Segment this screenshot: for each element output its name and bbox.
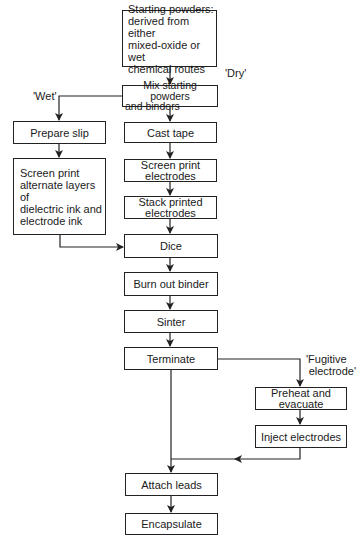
- node-sinter: Sinter: [124, 310, 218, 333]
- node-text-line: electrodes: [145, 208, 196, 219]
- node-text-line: derived from either: [128, 15, 214, 39]
- branch-label-fugitive-electrode: 'Fugitive electrode': [298, 353, 356, 377]
- node-text-line: chemical routes: [128, 63, 205, 75]
- node-encapsulate: Encapsulate: [125, 513, 218, 535]
- node-burn-out-binder: Burn out binder: [124, 272, 218, 296]
- node-mix-powders-binders: Mix starting powders and binders: [122, 85, 218, 107]
- node-text-line: Screen print: [20, 167, 79, 179]
- node-text: Terminate: [147, 353, 195, 365]
- node-text: Cast tape: [147, 127, 194, 139]
- node-text-line: and binders: [125, 101, 180, 112]
- node-text: Dice: [160, 240, 182, 252]
- branch-label-wet: 'Wet': [33, 90, 57, 102]
- node-text-line: dielectric ink and: [20, 203, 102, 215]
- node-text: Encapsulate: [141, 518, 202, 530]
- arrow-screen-print-to-dice: [60, 235, 123, 247]
- arrow-terminate-to-preheat: [218, 359, 300, 386]
- node-stack-printed-electrodes: Stack printed electrodes: [124, 196, 217, 219]
- node-text: Prepare slip: [30, 127, 89, 139]
- node-text-line: Stack printed: [138, 197, 202, 208]
- node-cast-tape: Cast tape: [124, 122, 217, 143]
- node-text-line: Screen print: [141, 160, 200, 171]
- node-dice: Dice: [124, 234, 218, 258]
- node-preheat-evacuate: Preheat and evacuate: [255, 387, 347, 410]
- arrow-mix-to-prepare-slip: [59, 96, 122, 120]
- label-line: 'Fugitive: [298, 353, 356, 365]
- node-text: Sinter: [157, 316, 186, 328]
- node-inject-electrodes: Inject electrodes: [255, 425, 347, 448]
- node-terminate: Terminate: [124, 347, 218, 370]
- node-text-line: evacuate: [279, 399, 324, 410]
- node-screen-print-electrodes: Screen print electrodes: [124, 159, 217, 182]
- node-starting-powders: Starting powders: derived from either mi…: [122, 10, 217, 67]
- node-text-line: electrodes: [145, 171, 196, 182]
- node-text-line: alternate layers of: [20, 179, 103, 203]
- node-text-line: Preheat and: [271, 388, 331, 399]
- label-line: electrode': [298, 365, 356, 377]
- flowchart-canvas: Starting powders: derived from either mi…: [0, 0, 364, 546]
- node-screen-print-layers: Screen print alternate layers of dielect…: [13, 158, 106, 235]
- node-text-line: Mix starting powders: [125, 80, 215, 101]
- node-text-line: Starting powders:: [128, 3, 214, 15]
- node-text-line: mixed-oxide or wet: [128, 39, 214, 63]
- node-text: Inject electrodes: [261, 431, 341, 443]
- node-text: Attach leads: [141, 479, 202, 491]
- node-text-line: electrode ink: [20, 215, 82, 227]
- node-attach-leads: Attach leads: [125, 473, 218, 496]
- node-prepare-slip: Prepare slip: [13, 121, 106, 144]
- arrow-inject-to-join: [235, 448, 300, 459]
- node-text: Burn out binder: [133, 278, 208, 290]
- branch-label-dry: 'Dry': [225, 67, 246, 79]
